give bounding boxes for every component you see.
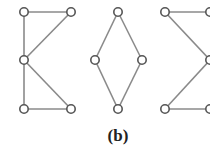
graph-edge [95,12,118,60]
graph-node [20,105,28,113]
graph-edge [95,60,118,109]
graph-3 [161,8,210,113]
graph-1 [20,8,75,113]
graph-node [138,56,146,64]
graph-node [161,8,169,16]
graph-edge [118,60,142,109]
graph-node [114,105,122,113]
graph-edge [24,60,71,109]
graph-node [161,105,169,113]
graph-node [67,105,75,113]
graph-node [206,56,210,64]
graph-edge [118,12,142,60]
graph-node [20,56,28,64]
graph-node [114,8,122,16]
figure-caption: (b) [0,126,210,146]
graph-edge [24,12,71,60]
graph-node [20,8,28,16]
graph-node [67,8,75,16]
graph-edge [165,12,210,60]
graph-node [206,8,210,16]
graph-edge [165,60,210,109]
graph-node [91,56,99,64]
graph-node [206,105,210,113]
graph-2 [91,8,146,113]
